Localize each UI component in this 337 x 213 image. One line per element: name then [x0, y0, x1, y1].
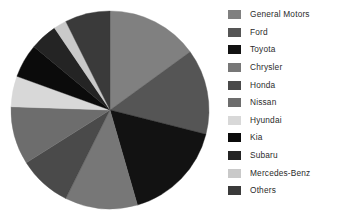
legend-swatch-icon [228, 63, 241, 72]
pie-chart-figure: General MotorsFordToyotaChryslerHondaNis… [0, 0, 337, 213]
legend-item-label: Kia [250, 133, 263, 142]
legend-swatch-icon [228, 186, 241, 195]
legend-item[interactable]: Hyundai [228, 112, 337, 130]
legend-item[interactable]: Ford [228, 24, 337, 42]
legend-swatch-icon [228, 151, 241, 160]
legend-swatch-icon [228, 28, 241, 37]
legend-item-label: General Motors [250, 10, 310, 19]
legend-item[interactable]: General Motors [228, 6, 337, 24]
legend-item[interactable]: Honda [228, 76, 337, 94]
legend-item-label: Toyota [250, 45, 276, 54]
legend-swatch-icon [228, 98, 241, 107]
legend-item[interactable]: Others [228, 182, 337, 200]
chart-legend: General MotorsFordToyotaChryslerHondaNis… [228, 6, 337, 206]
legend-item-label: Subaru [250, 151, 278, 160]
legend-item[interactable]: Nissan [228, 94, 337, 112]
pie-plot-area [0, 0, 220, 213]
legend-item[interactable]: Toyota [228, 41, 337, 59]
legend-swatch-icon [228, 133, 241, 142]
legend-swatch-icon [228, 10, 241, 19]
legend-item[interactable]: Kia [228, 129, 337, 147]
pie-slice-group [11, 11, 209, 209]
legend-swatch-icon [228, 116, 241, 125]
legend-item-label: Honda [250, 81, 275, 90]
legend-swatch-icon [228, 45, 241, 54]
legend-item[interactable]: Mercedes-Benz [228, 164, 337, 182]
pie-svg [0, 0, 220, 213]
legend-swatch-icon [228, 169, 241, 178]
legend-item-label: Hyundai [250, 116, 282, 125]
legend-item-label: Others [250, 186, 276, 195]
legend-item-label: Chrysler [250, 63, 282, 72]
legend-item[interactable]: Chrysler [228, 59, 337, 77]
legend-item[interactable]: Subaru [228, 147, 337, 165]
legend-item-label: Nissan [250, 98, 276, 107]
legend-swatch-icon [228, 81, 241, 90]
legend-item-label: Ford [250, 28, 268, 37]
legend-item-label: Mercedes-Benz [250, 169, 310, 178]
